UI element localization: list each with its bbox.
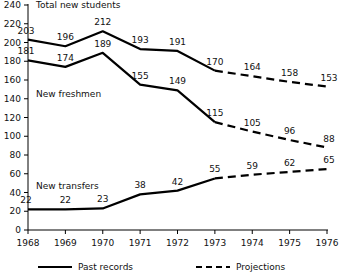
point-label-new-transfers: 38 xyxy=(134,181,145,190)
y-axis-tick-label: 100 xyxy=(0,132,21,141)
point-label-new-transfers: 59 xyxy=(247,162,258,171)
dashed-line-icon xyxy=(196,262,230,272)
point-label-new-transfers: 23 xyxy=(97,195,108,204)
x-axis-tick-label: 1970 xyxy=(91,239,114,248)
point-label-new-transfers: 55 xyxy=(209,165,220,174)
y-axis-tick-label: 140 xyxy=(0,94,21,103)
x-axis-tick-label: 1975 xyxy=(278,239,301,248)
y-axis-tick-label: 60 xyxy=(0,169,21,178)
legend-item-past-records: Past records xyxy=(38,262,133,272)
x-axis-tick-label: 1971 xyxy=(129,239,152,248)
point-label-total-new-students: 158 xyxy=(281,69,298,78)
point-label-new-freshmen: 155 xyxy=(132,72,149,81)
point-label-new-freshmen: 105 xyxy=(244,119,261,128)
point-label-total-new-students: 212 xyxy=(94,18,111,27)
chart-container: 020406080100120140160180200220240 196819… xyxy=(0,0,342,278)
y-axis-tick-label: 40 xyxy=(0,188,21,197)
point-label-total-new-students: 164 xyxy=(244,63,261,72)
point-label-new-transfers: 65 xyxy=(323,156,334,165)
series-annotation-total: Total new students xyxy=(36,0,120,10)
x-axis-tick-label: 1973 xyxy=(203,239,226,248)
point-label-new-transfers: 42 xyxy=(172,178,183,187)
y-axis-tick-label: 240 xyxy=(0,1,21,10)
y-axis-tick-label: 20 xyxy=(0,207,21,216)
point-label-new-freshmen: 181 xyxy=(17,47,34,56)
point-label-total-new-students: 203 xyxy=(17,27,34,36)
y-axis-tick-label: 80 xyxy=(0,151,21,160)
point-label-new-freshmen: 189 xyxy=(94,40,111,49)
line-dashed-new-freshmen xyxy=(215,122,327,147)
line-solid-new-freshmen xyxy=(28,53,215,122)
point-label-new-freshmen: 174 xyxy=(57,54,74,63)
y-axis-tick-label: 180 xyxy=(0,57,21,66)
point-label-total-new-students: 196 xyxy=(57,33,74,42)
x-axis-tick-label: 1968 xyxy=(17,239,40,248)
x-axis-tick-label: 1969 xyxy=(54,239,77,248)
point-label-new-freshmen: 149 xyxy=(169,77,186,86)
solid-line-icon xyxy=(38,262,72,272)
y-axis-tick-label: 120 xyxy=(0,113,21,122)
x-axis-tick-label: 1974 xyxy=(241,239,264,248)
point-label-new-freshmen: 96 xyxy=(284,127,295,136)
legend-item-projections: Projections xyxy=(196,262,285,272)
point-label-total-new-students: 170 xyxy=(206,58,223,67)
point-label-new-transfers: 22 xyxy=(60,196,71,205)
legend-label: Past records xyxy=(78,263,133,272)
y-axis-tick-label: 0 xyxy=(0,226,21,235)
point-label-total-new-students: 193 xyxy=(132,36,149,45)
y-axis-tick-label: 160 xyxy=(0,76,21,85)
x-axis-tick-label: 1972 xyxy=(166,239,189,248)
point-label-new-transfers: 22 xyxy=(20,196,31,205)
point-label-new-transfers: 62 xyxy=(284,159,295,168)
series-annotation-transfers: New transfers xyxy=(36,181,99,191)
x-axis-tick-label: 1976 xyxy=(316,239,339,248)
point-label-new-freshmen: 88 xyxy=(323,135,334,144)
line-dashed-new-transfers xyxy=(215,169,327,178)
series-annotation-freshmen: New freshmen xyxy=(36,89,101,99)
point-label-total-new-students: 153 xyxy=(320,74,337,83)
point-label-new-freshmen: 115 xyxy=(206,109,223,118)
legend-label: Projections xyxy=(236,263,285,272)
line-dashed-total-new-students xyxy=(215,71,327,87)
point-label-total-new-students: 191 xyxy=(169,38,186,47)
